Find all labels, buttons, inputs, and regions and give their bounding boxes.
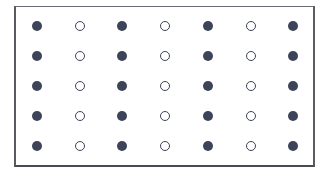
hollow-dot [246, 51, 256, 61]
hollow-dot [75, 51, 85, 61]
hollow-dot [160, 141, 170, 151]
filled-dot [203, 21, 213, 31]
filled-dot [32, 21, 42, 31]
hollow-dot [246, 141, 256, 151]
hollow-dot [160, 51, 170, 61]
filled-dot [288, 111, 298, 121]
filled-dot [117, 141, 127, 151]
filled-dot [117, 111, 127, 121]
filled-dot [288, 21, 298, 31]
filled-dot [117, 51, 127, 61]
hollow-dot [75, 81, 85, 91]
hollow-dot [75, 111, 85, 121]
filled-dot [288, 141, 298, 151]
filled-dot [203, 51, 213, 61]
filled-dot [203, 141, 213, 151]
filled-dot [117, 21, 127, 31]
filled-dot [288, 51, 298, 61]
hollow-dot [246, 111, 256, 121]
hollow-dot [75, 141, 85, 151]
filled-dot [117, 81, 127, 91]
filled-dot [203, 81, 213, 91]
filled-dot [288, 81, 298, 91]
hollow-dot [160, 21, 170, 31]
hollow-dot [160, 81, 170, 91]
filled-dot [203, 111, 213, 121]
hollow-dot [246, 21, 256, 31]
filled-dot [32, 111, 42, 121]
filled-dot [32, 51, 42, 61]
filled-dot [32, 81, 42, 91]
hollow-dot [160, 111, 170, 121]
filled-dot [32, 141, 42, 151]
hollow-dot [246, 81, 256, 91]
hollow-dot [75, 21, 85, 31]
